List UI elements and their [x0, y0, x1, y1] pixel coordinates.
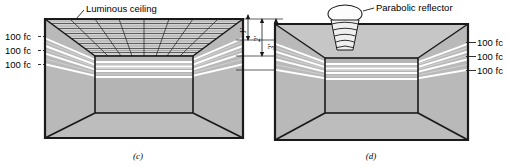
parabolic-reflector-label: Parabolic reflector — [376, 2, 453, 13]
dimension-label-1: 1' — [239, 28, 248, 34]
panel-d-fc-label-3: 100 fc — [477, 65, 503, 76]
panel-c-fc-label-2: 100 fc — [5, 45, 31, 56]
panel-c-caption: (c) — [133, 151, 143, 161]
panel-c-contour-labels: 100 fc 100 fc 100 fc — [5, 31, 47, 70]
figure-illuminance-contours: Luminous ceiling 100 fc 100 fc 100 fc (c… — [0, 0, 509, 166]
panel-c-back-wall — [95, 56, 193, 113]
panel-d-fc-label-1: 100 fc — [477, 37, 503, 48]
panel-d-fc-label-2: 100 fc — [477, 51, 503, 62]
luminous-ceiling-label: Luminous ceiling — [86, 3, 157, 14]
panel-d-contour-labels: 100 fc 100 fc 100 fc — [466, 37, 503, 76]
panel-c-fc-label-1: 100 fc — [5, 31, 31, 42]
dimension-label-2: 2' — [253, 36, 262, 42]
panel-d: Parabolic reflector 100 fc 100 fc 100 fc… — [270, 2, 503, 161]
panel-c-fc-label-3: 100 fc — [5, 59, 31, 70]
panel-d-caption: (d) — [366, 151, 377, 161]
